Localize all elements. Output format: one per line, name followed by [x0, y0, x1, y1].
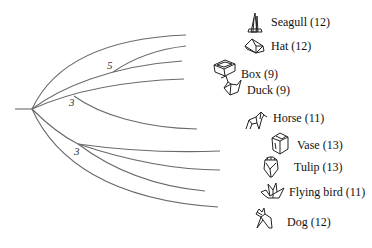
- leaf-label-hat: Hat (12): [271, 39, 311, 54]
- leaf-label-dog: Dog (12): [287, 215, 331, 230]
- leaf-flying-bird: Flying bird (11): [260, 180, 365, 204]
- branch-tulip: [78, 144, 220, 170]
- branch-to-node-3b: [32, 109, 78, 144]
- seagull-icon: [242, 10, 268, 34]
- leaf-seagull: Seagull (12): [242, 10, 330, 34]
- duck-icon: [218, 74, 244, 98]
- leaf-label-vase: Vase (13): [297, 138, 343, 153]
- branch-seagull: [32, 35, 186, 109]
- node-label-5: 5: [107, 59, 113, 71]
- leaf-label-tulip: Tulip (13): [294, 160, 343, 175]
- leaf-dog: Dog (12): [253, 205, 331, 230]
- branch-horse: [74, 96, 197, 129]
- leaf-label-seagull: Seagull (12): [271, 15, 330, 30]
- branch-hat: [113, 46, 186, 72]
- leaf-label-horse: Horse (11): [273, 111, 324, 126]
- vase-icon: [268, 131, 294, 155]
- leaf-label-duck: Duck (9): [247, 83, 290, 98]
- tulip-icon: [258, 155, 284, 179]
- branch-flying-bird: [78, 144, 205, 191]
- leaf-duck: Duck (9): [218, 74, 290, 98]
- leaf-vase: Vase (13): [268, 131, 343, 155]
- flying-bird-icon: [260, 180, 286, 204]
- horse-icon: [244, 109, 270, 133]
- leaf-tulip: Tulip (13): [258, 155, 343, 179]
- leaf-horse: Horse (11): [244, 109, 324, 133]
- node-label-3-upper: 3: [69, 96, 75, 108]
- leaf-label-flying-bird: Flying bird (11): [289, 185, 365, 200]
- node-label-3-lower: 3: [74, 145, 80, 157]
- dog-icon: [253, 206, 279, 230]
